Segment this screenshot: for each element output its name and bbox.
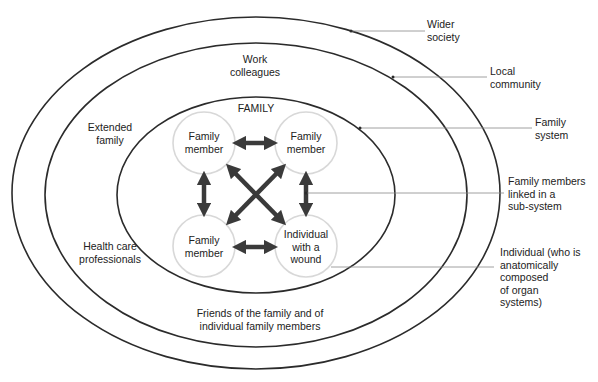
label-health-care-professionals: Health care professionals [70, 240, 150, 265]
family-title: FAMILY [226, 102, 286, 115]
label-work-colleagues: Work colleagues [225, 53, 285, 78]
label-friends: Friends of the family and of individual … [180, 307, 340, 332]
annotation-wider-society: Wider society [427, 18, 460, 43]
node-bottom-left: Family member [169, 234, 239, 259]
annotation-local-community: Local community [490, 65, 541, 90]
label-extended-family: Extended family [80, 121, 140, 146]
annotation-individual: Individual (who is anatomically composed… [500, 246, 581, 309]
annotation-family-system: Family system [535, 116, 568, 141]
node-top-right: Family member [271, 130, 341, 155]
annotation-sub-system: Family members linked in a sub-system [508, 175, 586, 213]
node-top-left: Family member [169, 130, 239, 155]
node-individual-with-wound: Individual with a wound [271, 228, 341, 266]
